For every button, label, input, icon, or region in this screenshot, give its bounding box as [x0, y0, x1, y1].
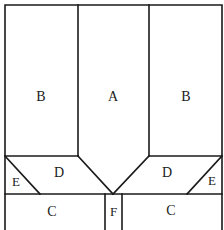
label-d-left: D [54, 165, 64, 180]
label-e-right: E [208, 173, 216, 188]
pattern-diagram-svg: B A B D D E E C F C [0, 0, 224, 230]
pattern-diagram: B A B D D E E C F C [0, 0, 224, 230]
label-b-right: B [181, 89, 190, 104]
e-left-diagonal [5, 156, 40, 194]
a-point-right [113, 156, 149, 194]
label-a: A [108, 89, 119, 104]
e-right-diagonal [187, 156, 222, 194]
label-e-left: E [12, 174, 20, 189]
label-b-left: B [36, 89, 45, 104]
outer-border [5, 5, 222, 230]
a-point-left [78, 156, 113, 194]
label-d-right: D [162, 165, 172, 180]
label-c-right: C [166, 203, 175, 218]
label-c-left: C [47, 204, 56, 219]
label-f: F [110, 204, 117, 219]
